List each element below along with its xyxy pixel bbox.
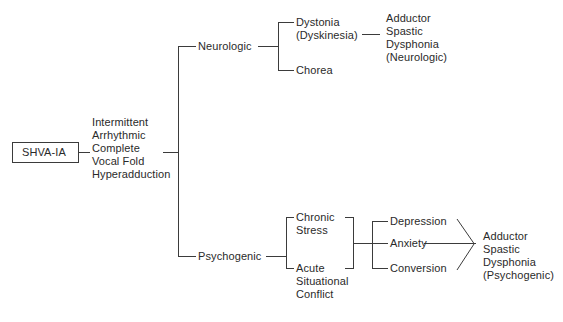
diagram-canvas: SHVA-IA Intermittent Arrhythmic Complete…: [0, 0, 563, 322]
description-node-label: Intermittent Arrhythmic Complete Vocal F…: [92, 116, 170, 181]
root-node-label: SHVA-IA: [22, 146, 66, 159]
bracket-psychogenic-causes: [287, 218, 295, 269]
connector-depression-to-outcome: [457, 219, 474, 244]
node-label-anxiety: Anxiety: [390, 237, 427, 250]
connector-lines: [0, 0, 563, 322]
connector-conversion-to-outcome: [457, 244, 474, 270]
node-label-chorea: Chorea: [296, 64, 333, 77]
node-label-chronic-stress: Chronic Stress: [296, 211, 335, 237]
branch-label-neurologic: Neurologic: [198, 40, 252, 53]
bracket-causes-close: [345, 218, 354, 269]
node-label-dystonia: Dystonia (Dyskinesia): [296, 16, 358, 42]
node-label-acute-situational-conflict: Acute Situational Conflict: [296, 262, 348, 301]
branch-label-psychogenic: Psychogenic: [198, 250, 261, 263]
node-label-conversion: Conversion: [390, 262, 447, 275]
node-label-depression: Depression: [390, 215, 447, 228]
outcome-label-neurologic: Adductor Spastic Dysphonia (Neurologic): [386, 12, 447, 64]
outcome-label-psychogenic: Adductor Spastic Dysphonia (Psychogenic): [483, 230, 554, 282]
